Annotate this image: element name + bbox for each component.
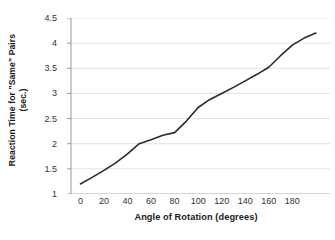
y-tick-marks xyxy=(67,18,71,194)
y-tick-label: 4 xyxy=(33,39,57,48)
x-tick-label: 180 xyxy=(285,196,300,206)
x-tick-label: 0 xyxy=(78,196,83,206)
y-tick-label: 3.5 xyxy=(33,64,57,73)
y-tick-label: 2.5 xyxy=(33,114,57,123)
plot-area xyxy=(62,18,330,194)
chart-figure: Reaction Time for "Same" Pairs (sec.) 11… xyxy=(0,0,335,240)
y-tick-label: 2 xyxy=(33,139,57,148)
data-line-series-1 xyxy=(80,33,315,184)
x-tick-label: 160 xyxy=(261,196,276,206)
y-axis-tick-labels: 11.522.533.544.5 xyxy=(33,0,57,240)
y-tick-label: 3 xyxy=(33,89,57,98)
y-tick-label: 1 xyxy=(33,190,57,199)
y-tick-label: 1.5 xyxy=(33,164,57,173)
x-tick-label: 80 xyxy=(170,196,180,206)
chart-canvas xyxy=(62,18,330,194)
x-tick-label: 100 xyxy=(191,196,206,206)
x-axis-tick-labels: 020406080100120140160180 xyxy=(62,196,330,210)
y-axis-title: Reaction Time for "Same" Pairs (sec.) xyxy=(0,0,36,200)
y-axis-title-line2: (sec.) xyxy=(18,34,29,166)
x-tick-label: 120 xyxy=(214,196,229,206)
x-tick-label: 60 xyxy=(146,196,156,206)
x-tick-label: 140 xyxy=(238,196,253,206)
x-tick-label: 40 xyxy=(122,196,132,206)
y-tick-label: 4.5 xyxy=(33,14,57,23)
x-axis-title: Angle of Rotation (degrees) xyxy=(62,212,330,222)
y-axis-title-line1: Reaction Time for "Same" Pairs xyxy=(7,34,18,166)
x-tick-label: 20 xyxy=(99,196,109,206)
